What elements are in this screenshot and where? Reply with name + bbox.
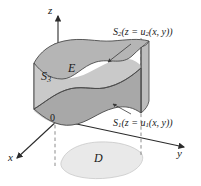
side-wall-right bbox=[141, 41, 149, 113]
label-S1-equation-prefix: (z = u bbox=[121, 117, 145, 128]
label-S3-subscript: 3 bbox=[47, 75, 51, 84]
label-S2-equation-prefix: (z = u bbox=[121, 26, 145, 37]
axis-label-origin: 0 bbox=[50, 113, 55, 123]
label-projection-region-D: D bbox=[94, 152, 103, 164]
label-upper-surface-S2: S2(z = u2(x, y)) bbox=[113, 27, 173, 38]
figure-3d-solid-region: z x y 0 S3 E D S2(z = u2(x, y)) S1(z = u… bbox=[0, 0, 201, 186]
label-S1-equation-suffix: (x, y)) bbox=[149, 117, 173, 128]
axis-label-z: z bbox=[48, 5, 52, 16]
axis-x bbox=[17, 120, 58, 158]
axis-label-x: x bbox=[8, 152, 13, 163]
label-S2-equation-suffix: (x, y)) bbox=[149, 26, 173, 37]
label-solid-region-E: E bbox=[68, 62, 75, 74]
label-lateral-surface-S3: S3 bbox=[41, 70, 51, 84]
label-lower-surface-S1: S1(z = u1(x, y)) bbox=[113, 118, 173, 129]
axis-label-y: y bbox=[177, 148, 182, 159]
